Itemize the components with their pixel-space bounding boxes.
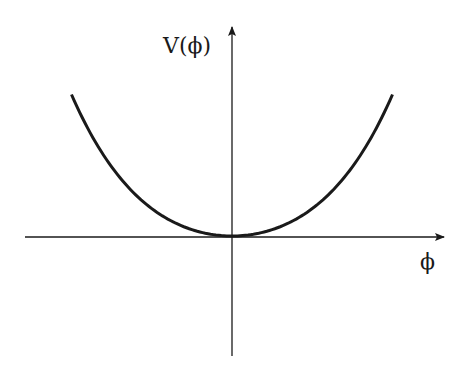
potential-diagram: V(ϕ) ϕ: [0, 0, 462, 369]
y-axis-label: V(ϕ): [162, 33, 211, 58]
x-axis-label: ϕ: [420, 249, 435, 274]
